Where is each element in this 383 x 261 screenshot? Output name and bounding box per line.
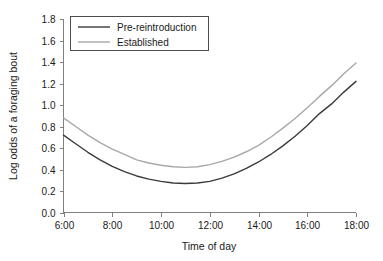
x-tick-label: 14:00 [247,220,272,231]
y-tick-label: 1.6 [42,36,56,47]
series-lines [64,63,357,183]
y-axis-title: Log odds of a foraging bout [7,52,19,180]
y-tick-label: 0.2 [42,186,56,197]
y-tick-label: 1.8 [42,14,56,25]
series-line-pre-reintroduction [64,81,357,183]
chart-legend: Pre-reintroduction Established [71,17,209,51]
y-tick-label: 0.4 [42,165,56,176]
x-axis-ticks [65,213,357,217]
y-tick-label: 1.2 [42,79,56,90]
x-tick-label: 8:00 [103,220,123,231]
x-tick-label: 16:00 [295,220,320,231]
x-tick-label: 10:00 [149,220,174,231]
legend-label-pre-reintroduction: Pre-reintroduction [117,22,196,33]
series-line-established [64,63,357,167]
legend-label-established: Established [117,37,169,48]
y-axis-ticks [60,20,64,214]
x-tick-label: 18:00 [344,220,369,231]
y-tick-label: 0.0 [42,208,56,219]
chart-canvas: 0.00.20.40.60.81.01.21.41.61.8 6:008:001… [0,0,383,261]
y-tick-label: 0.6 [42,143,56,154]
x-tick-label: 12:00 [198,220,223,231]
chart-figure: 0.00.20.40.60.81.01.21.41.61.8 6:008:001… [0,0,383,261]
x-axis-title: Time of day [182,240,237,252]
x-tick-label: 6:00 [55,220,75,231]
y-tick-label: 0.8 [42,122,56,133]
x-axis-tick-labels: 6:008:0010:0012:0014:0016:0018:00 [55,220,370,231]
y-tick-label: 1.4 [42,57,56,68]
y-tick-label: 1.0 [42,100,56,111]
y-axis-tick-labels: 0.00.20.40.60.81.01.21.41.61.8 [42,14,56,219]
